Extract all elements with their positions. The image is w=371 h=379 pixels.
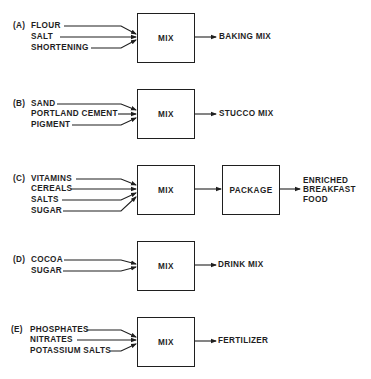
output-fertilizer: FERTILIZER — [218, 336, 268, 345]
output-stucco-mix: STUCCO MIX — [219, 109, 273, 118]
process-a-label: (A) — [13, 21, 25, 30]
mix-label: MIX — [158, 34, 174, 43]
arrow-cocoa — [64, 260, 136, 264]
input-sugar: SUGAR — [31, 266, 62, 275]
arrow-sugar-d — [63, 267, 136, 271]
input-sand: SAND — [31, 99, 55, 108]
package-label: PACKAGE — [229, 186, 272, 195]
input-pigment: PIGMENT — [31, 120, 70, 129]
input-cocoa: COCOA — [31, 255, 63, 264]
output-line-2: BREAKFAST — [303, 185, 356, 194]
mix-box-a: MIX — [137, 13, 195, 63]
arrow-phosphates — [86, 330, 136, 337]
input-cereals: CEREALS — [31, 184, 72, 193]
arrow-vitamins — [76, 179, 136, 185]
process-d-label: (D) — [13, 255, 25, 264]
input-vitamins: VITAMINS — [31, 174, 72, 183]
mix-box-d: MIX — [137, 241, 195, 291]
arrow-shortening — [91, 40, 136, 48]
input-salts: SALTS — [31, 195, 59, 204]
output-enriched-breakfast-food: ENRICHED BREAKFAST FOOD — [303, 176, 356, 204]
input-sugar: SUGAR — [31, 206, 62, 215]
mix-box-b: MIX — [137, 89, 195, 139]
output-line-3: FOOD — [303, 195, 356, 204]
mix-label: MIX — [158, 262, 174, 271]
input-portland-cement: PORTLAND CEMENT — [31, 109, 118, 118]
mix-label: MIX — [158, 186, 174, 195]
arrow-sugar-c — [63, 197, 136, 211]
mix-label: MIX — [158, 338, 174, 347]
output-line-1: ENRICHED — [303, 176, 356, 185]
package-box-c: PACKAGE — [222, 165, 280, 215]
input-shortening: SHORTENING — [31, 43, 89, 52]
mix-box-c: MIX — [137, 165, 195, 215]
arrow-potassium-salts — [110, 344, 136, 351]
arrow-flour — [64, 26, 136, 34]
process-c-label: (C) — [13, 174, 25, 183]
mix-label: MIX — [158, 110, 174, 119]
mix-box-e: MIX — [137, 317, 195, 367]
input-phosphates: PHOSPHATES — [30, 325, 89, 334]
input-nitrates: NITRATES — [30, 335, 73, 344]
process-b-label: (B) — [13, 99, 25, 108]
input-salt: SALT — [31, 32, 53, 41]
process-e-label: (E) — [11, 325, 23, 334]
input-flour: FLOUR — [31, 21, 61, 30]
arrow-pigment — [72, 118, 136, 125]
output-drink-mix: DRINK MIX — [218, 260, 263, 269]
input-potassium-salts: POTASSIUM SALTS — [30, 346, 111, 355]
output-baking-mix: BAKING MIX — [219, 32, 271, 41]
arrow-salts — [62, 193, 136, 200]
